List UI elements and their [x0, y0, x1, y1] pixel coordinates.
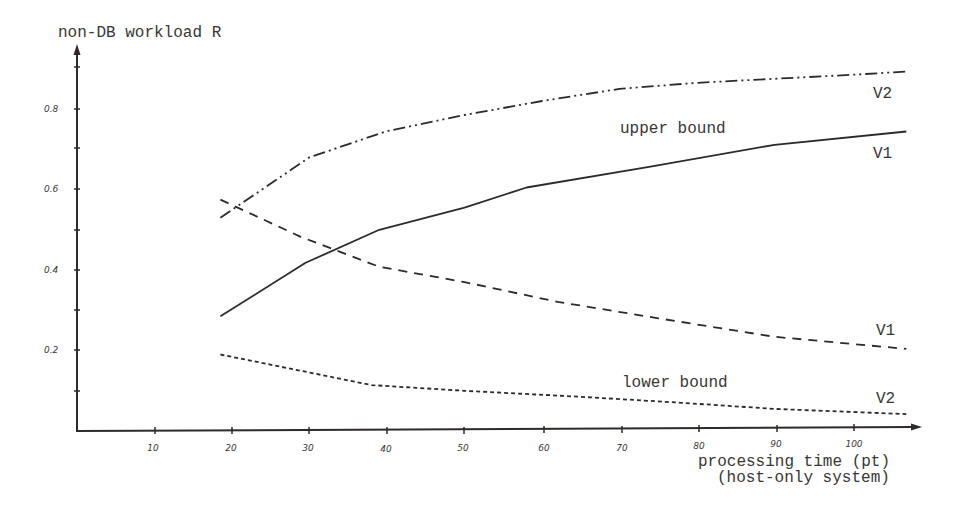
- x-tick-label: 90: [770, 439, 782, 449]
- lower-bound-v2-line: [220, 355, 906, 415]
- x-tick-label: 80: [693, 441, 705, 451]
- x-axis-arrow-icon: [911, 424, 922, 431]
- y-axis-title: non-DB workload R: [58, 24, 222, 42]
- x-axis: [76, 427, 914, 431]
- upper-bound-v1-line: [220, 132, 906, 317]
- x-axis-subtitle: (host-only system): [717, 469, 890, 487]
- lower-v2-label: V2: [876, 390, 895, 408]
- x-tick-label: 10: [147, 443, 159, 453]
- lower-bound-v1-line: [220, 200, 906, 349]
- x-tick-label: 100: [845, 439, 862, 449]
- x-tick-label: 20: [225, 443, 237, 453]
- series-group: [220, 72, 906, 415]
- upper-bound-v2-line: [220, 72, 906, 218]
- x-tick-label: 30: [302, 443, 314, 453]
- lower-bound-label: lower bound: [622, 374, 728, 392]
- x-tick-label: 50: [457, 443, 469, 453]
- lower-v1-label: V1: [876, 322, 895, 340]
- upper-bound-label: upper bound: [620, 120, 726, 138]
- y-tick-label: 0.4: [44, 265, 59, 275]
- x-tick-label: 70: [616, 443, 628, 453]
- x-tick-label: 40: [380, 444, 392, 454]
- x-tick-labels: 10 20 30 40 50 60 70 80 90 100: [147, 439, 863, 454]
- y-tick-label: 0.8: [44, 104, 59, 114]
- y-tick-label: 0.2: [44, 345, 59, 355]
- y-tick-labels: 0.2 0.4 0.6 0.8: [44, 104, 59, 355]
- upper-v2-label: V2: [873, 85, 892, 103]
- upper-v1-label: V1: [873, 145, 892, 163]
- y-tick-label: 0.6: [44, 184, 59, 194]
- axes: [74, 44, 923, 431]
- x-tick-label: 60: [538, 443, 550, 453]
- y-axis-arrow-icon: [74, 44, 81, 55]
- chart-canvas: 0.2 0.4 0.6 0.8 10 20 30 40 50 60 70 80 …: [0, 0, 962, 515]
